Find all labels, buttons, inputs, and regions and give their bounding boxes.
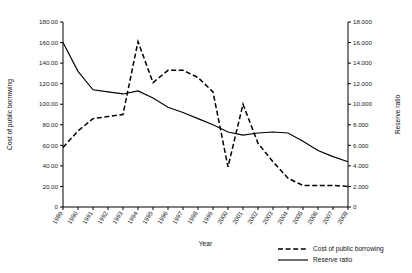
y2-axis-tick-label: 14.000 (353, 59, 372, 66)
y-axis-tick-label: 40.00 (43, 162, 59, 169)
x-axis-tick-label: 1993 (111, 209, 125, 225)
x-axis-tick-label: 1998 (186, 209, 200, 225)
x-axis-tick-label: 1991 (81, 209, 95, 225)
left-bottom-axis (63, 22, 348, 207)
x-axis-tick-label: 2004 (276, 209, 290, 225)
legend-label-2: Reserve ratio (313, 256, 353, 263)
legend-label-1: Cost of public borrowing (313, 245, 384, 253)
x-axis-tick-label: 1999 (201, 209, 215, 225)
series-line-2 (63, 43, 348, 162)
y-axis-tick-label: 80.00 (43, 121, 59, 128)
x-axis-title: Year (199, 240, 213, 247)
y-axis-tick-label: 0 (55, 203, 59, 210)
y2-axis-tick-label: 6.000 (353, 142, 369, 149)
x-axis-tick-label: 1995 (141, 209, 155, 225)
y-axis-tick-label: 160.00 (39, 39, 58, 46)
x-axis-tick-label: 1989 (51, 209, 65, 225)
y2-axis-title: Reserve ratio (394, 95, 401, 135)
x-axis-tick-label: 2002 (246, 209, 260, 225)
x-axis-tick-label: 2005 (291, 209, 305, 225)
x-axis-tick-label: 2007 (321, 209, 335, 225)
x-axis-tick-label: 1996 (156, 209, 170, 225)
x-axis-tick-label: 2008 (336, 209, 350, 225)
y-axis-tick-label: 100.00 (39, 100, 58, 107)
x-axis-tick-label: 1990 (66, 209, 80, 225)
x-axis-tick-label: 1997 (171, 209, 185, 225)
chart-container: 020.0040.0060.0080.00100.00120.00140.001… (0, 0, 412, 273)
y-axis-tick-label: 120.00 (39, 80, 58, 87)
x-axis-tick-label: 2006 (306, 209, 320, 225)
y-axis-tick-label: 140.00 (39, 59, 58, 66)
y2-axis-tick-label: 12.000 (353, 80, 372, 87)
y2-axis-tick-label: 16.000 (353, 39, 372, 46)
x-axis-tick-label: 2000 (216, 209, 230, 225)
x-axis-tick-label: 1992 (96, 209, 110, 225)
x-axis-tick-label: 1994 (126, 209, 140, 225)
y2-axis-tick-label: 8.000 (353, 121, 369, 128)
y-axis-title: Cost of public borrowing (6, 79, 14, 150)
y2-axis-tick-label: 2.000 (353, 183, 369, 190)
line-chart: 020.0040.0060.0080.00100.00120.00140.001… (0, 0, 412, 273)
y-axis-tick-label: 60.00 (43, 142, 59, 149)
y-axis-tick-label: 180.00 (39, 18, 58, 25)
series-line-1 (63, 42, 348, 187)
y2-axis-tick-label: 10.000 (353, 100, 372, 107)
y2-axis-tick-label: 0 (353, 203, 357, 210)
y-axis-tick-label: 20.00 (43, 183, 59, 190)
x-axis-tick-label: 2003 (261, 209, 275, 225)
y2-axis-tick-label: 4.000 (353, 162, 369, 169)
x-axis-tick-label: 2001 (231, 209, 245, 225)
y2-axis-tick-label: 18.000 (353, 18, 372, 25)
